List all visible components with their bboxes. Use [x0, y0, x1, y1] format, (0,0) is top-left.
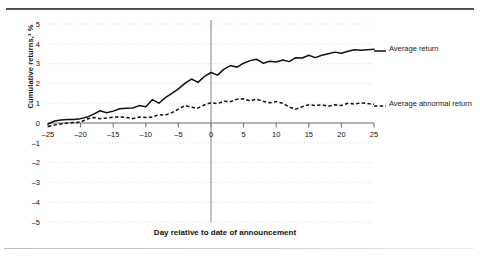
y-tick-label: –5	[32, 218, 40, 227]
y-tick-label: –3	[32, 178, 40, 187]
x-tick-label: 5	[242, 130, 246, 139]
x-tick-label: 0	[209, 130, 213, 139]
y-tick-label: –1	[32, 139, 40, 148]
y-tick-label: 5	[36, 20, 40, 29]
x-tick-label: 10	[272, 130, 280, 139]
x-tick-label: –10	[140, 130, 153, 139]
legend-swatch-group	[374, 51, 386, 106]
x-tick-label: –20	[74, 130, 87, 139]
figure-container: Cumulative returns,¹ % Day relative to d…	[0, 0, 480, 256]
y-tick-label: 0	[36, 119, 40, 128]
y-tick-label: 4	[36, 40, 40, 49]
x-tick-label: 20	[337, 130, 345, 139]
chart-plot-area: 543210–1–2–3–4–5–25–20–15–10–50510152025	[0, 0, 480, 256]
y-tick-label: –2	[32, 158, 40, 167]
x-tick-label: –5	[174, 130, 182, 139]
x-tick-label: –25	[42, 130, 55, 139]
y-tick-label: 1	[36, 99, 40, 108]
x-tick-label: –15	[107, 130, 120, 139]
y-tick-label: 2	[36, 79, 40, 88]
y-tick-label: 3	[36, 59, 40, 68]
x-tick-label: 15	[305, 130, 313, 139]
y-tick-label: –4	[32, 198, 40, 207]
x-tick-label: 25	[370, 130, 378, 139]
